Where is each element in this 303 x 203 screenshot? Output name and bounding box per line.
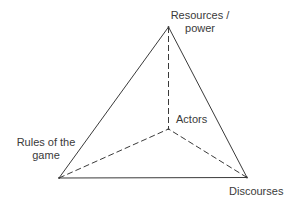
edge-discourses-actors xyxy=(169,129,248,178)
resources-line1: Resources / xyxy=(168,9,232,22)
diagram-lines xyxy=(0,0,303,203)
resources-line2: power xyxy=(168,22,232,35)
edge-resources-discourses xyxy=(169,27,248,178)
node-label-discourses: Discourses xyxy=(229,185,283,198)
actors-text: Actors xyxy=(176,113,207,125)
edge-rules-discourses xyxy=(59,178,247,179)
tetrahedron-diagram: Resources / power Actors Rules of the ga… xyxy=(0,0,303,203)
vertex-rules xyxy=(58,177,60,179)
discourses-text: Discourses xyxy=(229,185,283,197)
node-label-actors: Actors xyxy=(176,113,207,126)
vertex-actors xyxy=(168,128,170,130)
rules-line1: Rules of the xyxy=(13,136,79,149)
vertex-discourses xyxy=(246,177,248,179)
rules-line2: game xyxy=(13,149,79,162)
node-label-rules: Rules of the game xyxy=(13,136,79,162)
node-label-resources: Resources / power xyxy=(168,9,232,35)
